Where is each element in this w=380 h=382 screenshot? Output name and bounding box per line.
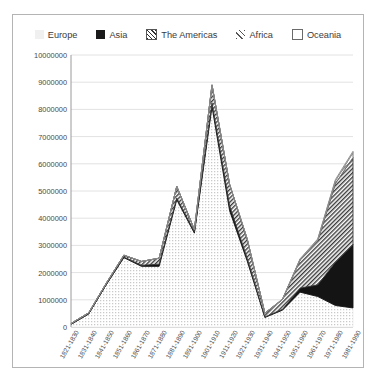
y-axis-tick-label: 9000000 bbox=[38, 78, 67, 87]
legend-label: Africa bbox=[249, 30, 273, 40]
y-axis-tick-label: 10000000 bbox=[34, 51, 67, 60]
y-axis-tick-label: 8000000 bbox=[38, 105, 67, 114]
chart-container: 0100000020000003000000400000050000006000… bbox=[12, 14, 364, 368]
legend-label: Europe bbox=[48, 30, 78, 40]
americas-hatch-swatch bbox=[146, 29, 157, 40]
legend-label: The Americas bbox=[161, 30, 217, 40]
europe-dotted-swatch bbox=[35, 30, 44, 39]
legend-entry-oceania[interactable]: Oceania bbox=[292, 29, 341, 40]
x-axis: 1821-18301831-18401841-18501851-18601861… bbox=[13, 329, 365, 369]
oceania-outline-swatch bbox=[292, 29, 303, 40]
africa-hatch-swatch bbox=[236, 30, 245, 39]
y-axis-tick-label: 7000000 bbox=[38, 132, 67, 141]
chart-legend: EuropeAsiaThe AmericasAfricaOceania bbox=[13, 29, 363, 40]
y-axis-tick-label: 3000000 bbox=[38, 241, 67, 250]
asia-solid-swatch bbox=[96, 30, 105, 39]
x-axis-tick-label: 1981-1990 bbox=[340, 329, 362, 360]
legend-entry-the-americas[interactable]: The Americas bbox=[146, 29, 217, 40]
y-axis-tick-label: 4000000 bbox=[38, 214, 67, 223]
legend-entry-africa[interactable]: Africa bbox=[236, 30, 273, 40]
y-axis-tick-label: 5000000 bbox=[38, 187, 67, 196]
legend-entry-asia[interactable]: Asia bbox=[96, 30, 127, 40]
y-axis-tick-label: 2000000 bbox=[38, 268, 67, 277]
legend-label: Asia bbox=[109, 30, 127, 40]
area-series-group bbox=[71, 85, 353, 327]
y-axis-tick-label: 6000000 bbox=[38, 159, 67, 168]
legend-entry-europe[interactable]: Europe bbox=[35, 30, 78, 40]
legend-label: Oceania bbox=[307, 30, 341, 40]
y-axis-tick-label: 1000000 bbox=[38, 295, 67, 304]
